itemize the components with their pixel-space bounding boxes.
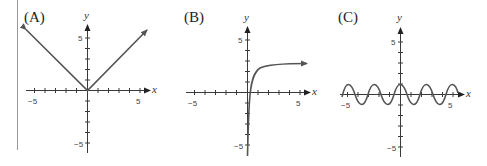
panel-c-ytick-5: 5: [391, 38, 396, 47]
panel-c-xtick-neg5: −5: [341, 101, 351, 110]
panel-a: (A): [24, 9, 157, 153]
panel-a-xtick-neg5: −5: [28, 97, 38, 106]
panel-a-xtick-5: 5: [136, 97, 141, 106]
panel-a-x-label: x: [151, 83, 157, 95]
panel-b-ytick-neg5: −5: [234, 142, 244, 151]
panel-a-abs-curve: [26, 30, 147, 91]
panel-b-ytick-5: 5: [238, 36, 243, 45]
panel-c-xtick-5: 5: [448, 101, 453, 110]
panel-b: (B) −5 5 5: [184, 9, 317, 156]
panel-a-label: (A): [24, 9, 45, 26]
panel-c-y-label: y: [396, 11, 402, 23]
figure-canvas: (A): [0, 0, 487, 166]
panel-b-xtick-5: 5: [296, 99, 301, 108]
panel-c-ytick-neg5: −5: [387, 144, 397, 153]
panel-b-label: (B): [184, 9, 204, 26]
panel-a-y-label: y: [83, 9, 89, 21]
panel-a-ytick-neg5: −5: [74, 140, 84, 149]
panel-a-ytick-5: 5: [78, 34, 83, 43]
panel-b-log-curve: [248, 64, 308, 157]
panel-c-x-label: x: [465, 87, 471, 99]
panel-b-xtick-neg5: −5: [188, 99, 198, 108]
panel-c: (C) −5 5 5: [338, 9, 471, 157]
panel-b-x-label: x: [311, 85, 317, 97]
panel-b-y-label: y: [243, 11, 249, 23]
panel-c-label: (C): [338, 9, 358, 26]
